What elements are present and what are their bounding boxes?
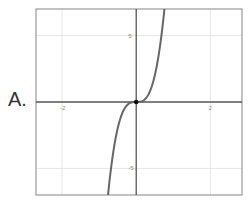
x-tick-label: -2 [60, 105, 66, 111]
y-tick-label: -5 [128, 165, 134, 171]
x-tick-label: 2 [208, 105, 212, 111]
origin-point [134, 100, 139, 105]
cubic-graph: -225-5 [0, 0, 252, 205]
